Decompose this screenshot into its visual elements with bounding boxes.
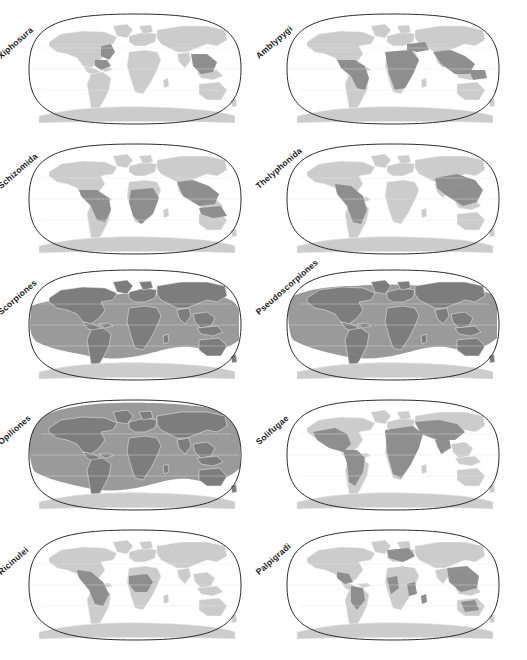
map-panel-scorpiones: Scorpiones xyxy=(0,262,251,389)
map-panel-xiphosura: Xiphosura xyxy=(0,6,251,133)
map-panel-amblypygi: Amblypygi xyxy=(258,6,509,133)
world-map-xiphosura xyxy=(21,8,249,130)
map-panel-ricinulei: Ricinulei xyxy=(0,522,251,649)
world-map-pseudoscorpiones xyxy=(279,264,507,386)
map-panel-palpigradi: Palpigradi xyxy=(258,522,509,649)
world-map-solifugae xyxy=(279,394,507,516)
map-svg-schizomida xyxy=(21,138,249,260)
map-svg-thelyphonida xyxy=(279,138,507,260)
map-svg-amblypygi xyxy=(279,8,507,130)
map-svg-palpigradi xyxy=(279,524,507,646)
map-panel-pseudoscorpiones: Pseudoscorpiones xyxy=(258,262,509,389)
map-panel-solifugae: Solifugae xyxy=(258,392,509,519)
world-map-scorpiones xyxy=(21,264,249,386)
world-map-opiliones xyxy=(21,394,249,516)
map-svg-solifugae xyxy=(279,394,507,516)
map-panel-schizomida: Schizomida xyxy=(0,136,251,263)
world-map-schizomida xyxy=(21,138,249,260)
map-svg-xiphosura xyxy=(21,8,249,130)
world-map-thelyphonida xyxy=(279,138,507,260)
distribution-map-figure: XiphosuraAmblypygiSchizomidaThelyphonida… xyxy=(0,0,527,660)
world-map-palpigradi xyxy=(279,524,507,646)
map-svg-opiliones xyxy=(21,394,249,516)
map-svg-pseudoscorpiones xyxy=(279,264,507,386)
world-map-amblypygi xyxy=(279,8,507,130)
map-panel-opiliones: Opiliones xyxy=(0,392,251,519)
map-panel-thelyphonida: Thelyphonida xyxy=(258,136,509,263)
map-svg-ricinulei xyxy=(21,524,249,646)
world-map-ricinulei xyxy=(21,524,249,646)
map-svg-scorpiones xyxy=(21,264,249,386)
